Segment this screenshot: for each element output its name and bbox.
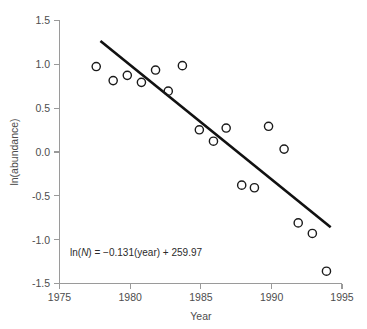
y-tick-label: -1.0 [32, 234, 50, 246]
data-point [164, 87, 172, 95]
data-point [294, 219, 302, 227]
x-tick-label: 1980 [119, 291, 143, 303]
x-tick-label: 1975 [48, 291, 72, 303]
data-point [209, 137, 217, 145]
data-point [92, 62, 100, 70]
y-tick-label: -0.5 [32, 190, 50, 202]
y-tick-label: -1.5 [32, 277, 50, 289]
x-axis-title: Year [190, 310, 212, 322]
y-tick-label: 1.5 [35, 14, 50, 26]
regression-fit-line [100, 41, 330, 227]
regression-equation-annotation: ln(N) = −0.131(year) + 259.97 [70, 247, 202, 258]
data-point [308, 229, 316, 237]
y-tick-label: 0.5 [35, 102, 50, 114]
data-point [137, 78, 145, 86]
data-point [151, 66, 159, 74]
y-axis-ticks: 1.5 1.0 0.5 0.0 -0.5 -1.0 -1.5 [32, 14, 59, 289]
data-points-group [92, 62, 330, 276]
data-point [195, 126, 203, 134]
data-point [123, 71, 131, 79]
y-axis-title: ln(abundance) [8, 118, 20, 185]
x-tick-label: 1990 [260, 291, 284, 303]
y-tick-label: 0.0 [35, 146, 50, 158]
data-point [222, 124, 230, 132]
y-tick-label: 1.0 [35, 58, 50, 70]
data-point [280, 145, 288, 153]
x-axis-ticks: 1975 1980 1985 1990 1995 [48, 284, 354, 304]
x-tick-label: 1995 [330, 291, 354, 303]
chart-page: 1.5 1.0 0.5 0.0 -0.5 -1.0 -1.5 1975 1980… [0, 0, 367, 329]
x-tick-label: 1985 [189, 291, 213, 303]
scatter-chart: 1.5 1.0 0.5 0.0 -0.5 -1.0 -1.5 1975 1980… [0, 0, 367, 329]
data-point [238, 181, 246, 189]
data-point [250, 184, 258, 192]
data-point [109, 77, 117, 85]
data-point [322, 267, 330, 275]
data-point [178, 62, 186, 70]
data-point [264, 122, 272, 130]
